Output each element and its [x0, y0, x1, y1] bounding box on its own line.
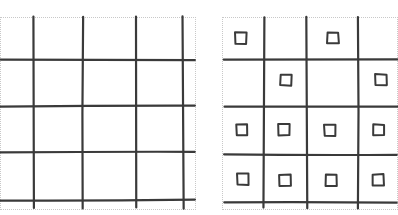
grid-line-horizontal [224, 202, 396, 203]
grid-line-vertical [358, 17, 359, 209]
grid-line-horizontal [0, 152, 195, 153]
grid-line-vertical [306, 17, 307, 208]
square-marker-icon [237, 173, 249, 185]
square-marker-icon [235, 32, 247, 44]
square-marker-icon [279, 174, 291, 185]
grid-line-horizontal [0, 106, 195, 107]
square-marker-icon [373, 124, 384, 135]
square-marker-icon [278, 124, 289, 135]
grid-line-vertical [82, 17, 83, 209]
square-marker-icon [327, 32, 339, 43]
grid-drawing [0, 0, 398, 215]
square-marker-icon [280, 75, 291, 86]
square-marker-icon [236, 124, 247, 135]
grid-line-horizontal [0, 200, 195, 201]
square-marker-icon [373, 174, 384, 185]
grid-line-horizontal [1, 60, 195, 61]
grid-line-vertical [263, 17, 264, 207]
square-marker-icon [324, 125, 335, 136]
square-marker-icon [375, 74, 387, 85]
grid-line-vertical [183, 16, 184, 208]
grid-line-horizontal [224, 154, 397, 155]
square-marker-icon [326, 174, 337, 186]
